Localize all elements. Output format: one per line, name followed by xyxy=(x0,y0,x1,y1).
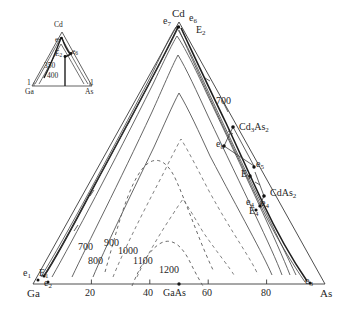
E1-sub: 1 xyxy=(45,272,49,280)
e4-sub: 4 xyxy=(265,202,269,210)
point-E2 xyxy=(177,25,180,28)
isotherm-label-1200: 1200 xyxy=(159,265,179,275)
cd3as2-part-cd: Cd xyxy=(239,121,251,132)
cdas2-part-cdas: CdAs xyxy=(270,187,293,198)
invariant-label-e7: e7 xyxy=(163,16,171,28)
invariant-label-e6: e6 xyxy=(189,13,197,25)
isotherm-700 xyxy=(41,27,296,277)
inset-corner-label-as: As xyxy=(85,88,93,96)
isotherm-label-800: 800 xyxy=(88,256,103,266)
point-cd3as2 xyxy=(231,125,235,129)
axis-tick-60: 60 xyxy=(202,288,212,298)
invariant-label-e1: e1 xyxy=(23,268,31,280)
invariant-label-E3: E3 xyxy=(241,169,251,181)
axis-tick-80: 80 xyxy=(261,288,271,298)
isotherm-label-900: 900 xyxy=(104,238,119,248)
isotherm-curves xyxy=(41,27,296,277)
inset-e7-sub: 7 xyxy=(58,38,61,44)
e2-sub: 2 xyxy=(48,282,52,290)
e8-sub: 8 xyxy=(220,143,224,151)
isotherm-label-700: 700 xyxy=(78,242,93,252)
inset-corner-label-cd: Cd xyxy=(54,21,63,29)
E2-sub: 2 xyxy=(202,29,206,37)
corner-label-as: As xyxy=(320,288,332,299)
cdas2-sub-2: 2 xyxy=(293,192,297,200)
e5-sub: 5 xyxy=(260,163,264,171)
inset-invariant-label-E2: E2 xyxy=(55,50,62,59)
invariant-label-e4: e4 xyxy=(261,198,269,210)
invariant-label-e3: e3 xyxy=(305,276,313,288)
inset-corner-label-ga: Ga xyxy=(25,88,34,96)
isotherm-label-700-right: 700 xyxy=(216,96,231,106)
phase-diagram-figure: Cd Ga As 20 40 60 80 GaAs 700 800 900 10… xyxy=(0,0,341,320)
inset-invariant-label-e7: e7 xyxy=(55,36,61,45)
inset-e6-sub: 6 xyxy=(75,50,78,56)
E4-sub: 4 xyxy=(255,210,259,218)
inset-invariant-label-e6: e6 xyxy=(72,48,78,57)
corner-label-cd: Cd xyxy=(172,8,185,19)
invariant-label-e8: e8 xyxy=(216,139,224,151)
compound-label-cd3as2: Cd3As2 xyxy=(239,122,269,134)
cd3as2-sub-2: 2 xyxy=(265,126,269,134)
cd3as2-part-as: As xyxy=(254,121,265,132)
inset-isotherm-label-400: 400 xyxy=(47,72,58,80)
invariant-label-e2: e2 xyxy=(44,278,52,290)
e3-sub: 3 xyxy=(309,280,313,288)
e7-sub: 7 xyxy=(167,20,171,28)
boundary-right-e6-e3 xyxy=(181,28,307,281)
inset-E2-sub: 2 xyxy=(60,52,63,58)
binary-point-label-gaas: GaAs xyxy=(163,288,186,298)
compound-label-cdas2: CdAs2 xyxy=(270,188,296,200)
isotherm-label-1100: 1100 xyxy=(133,256,153,266)
invariant-label-E4: E4 xyxy=(249,206,259,218)
gaas-point-marker xyxy=(177,282,180,285)
corner-label-ga: Ga xyxy=(27,288,40,299)
e1-sub: 1 xyxy=(27,272,31,280)
E3-sub: 3 xyxy=(247,173,251,181)
inset-tick-left-1: 1 xyxy=(27,79,31,87)
isotherm-direction-arrows xyxy=(74,78,260,231)
inset-tick-right-1: 1 xyxy=(90,79,94,87)
axis-tick-40: 40 xyxy=(143,288,153,298)
invariant-label-E1: E1 xyxy=(39,268,49,280)
inset-triangle xyxy=(32,32,92,86)
invariant-label-E2: E2 xyxy=(196,25,206,37)
inset-isotherm-label-350: 350 xyxy=(44,62,55,70)
invariant-label-e5: e5 xyxy=(256,159,264,171)
axis-tick-20: 20 xyxy=(85,288,95,298)
